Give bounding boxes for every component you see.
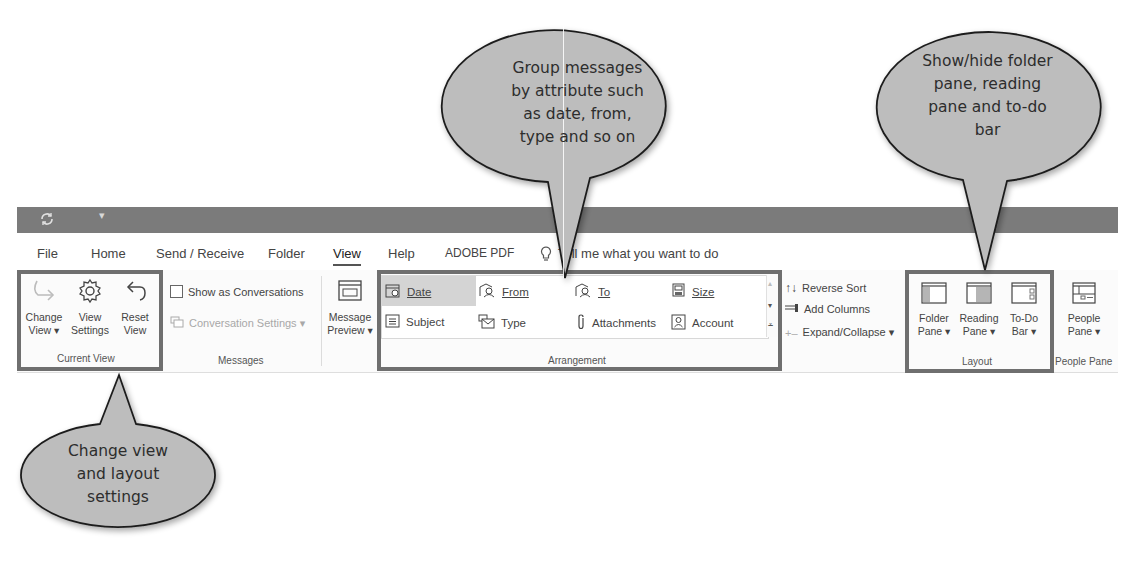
callout-layout-text: Show/hide folder pane, reading pane and … bbox=[880, 50, 1095, 142]
callout-arrangement-text: Group messages by attribute such as date… bbox=[470, 57, 685, 149]
callout-current-view-text: Change view and layout settings bbox=[20, 440, 216, 509]
